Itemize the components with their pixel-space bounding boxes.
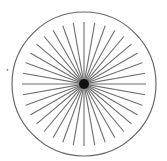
astigmatism-chart [0,0,167,161]
stray-mark: ‚ [6,62,9,72]
center-dot [79,79,89,89]
